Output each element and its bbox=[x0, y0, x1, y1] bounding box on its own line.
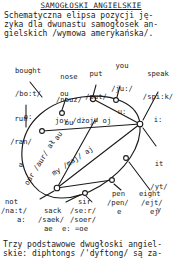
vowel-label-you: you /ju:/ u: bbox=[108, 47, 136, 131]
vowel-label-eight-symbol: ej bbox=[150, 208, 159, 216]
vowel-label-pen-word: pen bbox=[112, 190, 125, 198]
vowel-label-sir-word: sir bbox=[78, 198, 91, 206]
outro-paragraph: Trzy podstawowe dwugłoski angiel- skie: … bbox=[3, 240, 182, 259]
outro-line-1: Trzy podstawowe dwugłoski angiel- bbox=[3, 240, 182, 249]
vowel-label-sack-symbol: ae bbox=[44, 225, 53, 233]
vowel-label-pen-transcription: /pen/ bbox=[107, 199, 129, 207]
diphthong-label-ou: ou bbox=[60, 89, 69, 98]
vowel-label-sack-word: sack bbox=[44, 207, 61, 215]
vowel-label-put: put /put/ u bbox=[82, 55, 110, 139]
outro-line-2: skie: diphtongs /'dyftong/ są za- bbox=[3, 249, 182, 258]
vowel-label-eight-transcription: /ejt/ bbox=[141, 199, 163, 207]
vowel-label-eight-word: eight bbox=[139, 190, 161, 198]
vowel-label-not-transcription: /na:t/ bbox=[1, 207, 27, 215]
vowel-label-sir-symbol: e: =oe bbox=[62, 225, 88, 233]
vowel-label-sir-transcription2: /soer/ bbox=[70, 216, 96, 224]
vowel-label-it: it /yt/ y bbox=[144, 145, 174, 229]
diphthong-label-joy: joy /dżoj/ oj bbox=[55, 116, 111, 125]
scanned-page: SAMOGŁOSKI ANGIELSKIE Schematyczna elips… bbox=[0, 0, 182, 262]
vowel-label-not-symbol: a: bbox=[17, 216, 26, 224]
vowel-label-sack-transcription: /saek/ bbox=[38, 216, 64, 224]
vowel-label-sir-transcription: /se:r/ bbox=[70, 207, 96, 215]
vowel-label-pen-symbol: e bbox=[117, 208, 121, 216]
vowel-label-not-word: not bbox=[5, 198, 18, 206]
vowel-label-speak: speak /spi:k/ i: bbox=[136, 55, 180, 139]
